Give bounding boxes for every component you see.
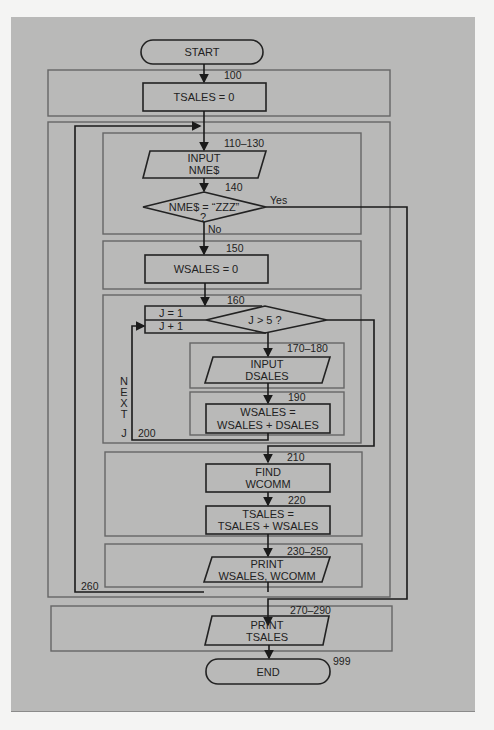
decision-yes-label: Yes xyxy=(270,194,287,206)
line-number-999: 999 xyxy=(333,655,351,667)
line-number-150: 150 xyxy=(226,242,244,254)
process-wsales-accumulate-text1: WSALES = xyxy=(240,406,295,418)
input-dsales-text1: INPUT xyxy=(251,358,284,370)
process-tsales-accumulate-text2: TSALES + WSALES xyxy=(218,520,319,532)
end-label: END xyxy=(256,666,279,678)
input-dsales-text2: DSALES xyxy=(245,370,288,382)
start-label: START xyxy=(184,46,219,58)
line-number-140: 140 xyxy=(225,181,243,193)
line-number-170-180: 170–180 xyxy=(287,342,328,354)
next-var-j: J xyxy=(121,427,127,439)
process-tsales-init-text: TSALES = 0 xyxy=(174,91,235,103)
line-number-100: 100 xyxy=(224,69,242,81)
print-wsales-wcomm-text2: WSALES, WCOMM xyxy=(218,570,315,582)
decision-nme-zzz-q: ? xyxy=(200,211,206,223)
process-wsales-init-text: WSALES = 0 xyxy=(174,263,239,275)
process-find-wcomm-text2: WCOMM xyxy=(245,478,290,490)
line-number-230-250: 230–250 xyxy=(287,545,328,557)
process-tsales-accumulate-text1: TSALES = xyxy=(242,508,294,520)
process-find-wcomm-text1: FIND xyxy=(255,466,281,478)
loop-increment-text: J + 1 xyxy=(159,320,183,332)
print-wsales-wcomm-text1: PRINT xyxy=(251,558,284,570)
line-number-210: 210 xyxy=(287,451,305,463)
decision-no-label: No xyxy=(208,223,222,235)
flowchart: START 100 TSALES = 0 110–130 INPUT NME$ … xyxy=(0,0,494,730)
line-number-200: 200 xyxy=(138,427,156,439)
line-number-190: 190 xyxy=(288,391,306,403)
print-tsales-text1: PRINT xyxy=(251,619,284,631)
line-number-160: 160 xyxy=(227,294,245,306)
line-number-110-130: 110–130 xyxy=(224,137,264,149)
decision-j-gt-5-text: J > 5 ? xyxy=(248,314,281,326)
process-wsales-accumulate-text2: WSALES + DSALES xyxy=(217,419,319,431)
input-nme-text2: NME$ xyxy=(189,164,220,176)
input-nme-text1: INPUT xyxy=(188,152,221,164)
line-number-220: 220 xyxy=(288,494,306,506)
line-number-260: 260 xyxy=(81,580,99,592)
loop-init-text: J = 1 xyxy=(159,307,183,319)
line-number-270-290: 270–290 xyxy=(290,604,331,616)
print-tsales-text2: TSALES xyxy=(246,631,288,643)
next-letter-t: T xyxy=(121,408,128,420)
